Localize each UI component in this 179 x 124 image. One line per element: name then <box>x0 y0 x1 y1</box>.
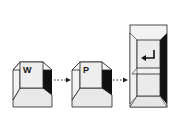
key-w: W <box>13 62 52 107</box>
arrow-connector-2 <box>113 78 128 83</box>
key-enter <box>130 25 167 107</box>
arrow-connector-1 <box>54 78 71 83</box>
key-p-label: P <box>83 65 89 75</box>
keystroke-diagram: W P <box>0 0 179 124</box>
key-w-label: W <box>23 65 32 75</box>
key-p: P <box>72 62 112 107</box>
